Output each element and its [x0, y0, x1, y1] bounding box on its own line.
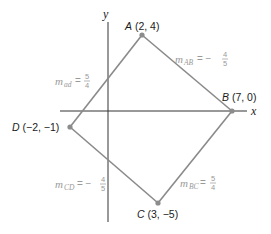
- svg-text:=: =: [75, 75, 81, 86]
- slope-label-ab: m AB = − 4 5: [175, 50, 228, 68]
- vertex-a: [139, 32, 144, 37]
- x-axis-label: x: [250, 104, 257, 118]
- svg-text:=: =: [200, 177, 206, 188]
- edge-ab: [142, 35, 232, 111]
- point-label-b: B (7, 0): [222, 91, 256, 103]
- svg-text:4: 4: [211, 183, 215, 192]
- svg-text:5: 5: [211, 174, 215, 183]
- svg-text:m: m: [55, 75, 63, 87]
- point-label-a: A (2, 4): [124, 20, 159, 32]
- svg-text:4: 4: [223, 50, 227, 59]
- svg-text:= −: = −: [197, 53, 212, 64]
- slope-label-ad: m ad = 5 4: [55, 72, 90, 90]
- vertex-b: [229, 108, 234, 113]
- svg-text:AB: AB: [183, 58, 194, 67]
- point-label-c: C (3, −5): [137, 208, 178, 220]
- svg-text:BC: BC: [189, 182, 200, 191]
- svg-text:4: 4: [101, 175, 105, 184]
- svg-text:m: m: [175, 53, 183, 65]
- svg-text:5: 5: [85, 72, 89, 81]
- svg-text:= −: = −: [77, 178, 92, 189]
- svg-text:5: 5: [101, 184, 105, 193]
- y-axis-label: y: [102, 7, 109, 21]
- svg-text:4: 4: [85, 81, 89, 90]
- point-label-d: D (−2, −1): [12, 121, 59, 133]
- svg-text:CD: CD: [64, 183, 75, 192]
- svg-text:m: m: [55, 178, 63, 190]
- edge-cd: [70, 127, 158, 203]
- vertex-d: [67, 124, 72, 129]
- slope-label-cd: m CD = − 4 5: [55, 175, 106, 193]
- quadrilateral-diagram: x y A (2, 4) B (7, 0) C (3, −5) D (−2, −…: [0, 0, 271, 234]
- svg-text:5: 5: [223, 59, 227, 68]
- svg-text:ad: ad: [64, 80, 72, 89]
- slope-label-bc: m BC = 5 4: [180, 174, 216, 192]
- svg-text:m: m: [180, 177, 188, 189]
- vertex-c: [155, 200, 160, 205]
